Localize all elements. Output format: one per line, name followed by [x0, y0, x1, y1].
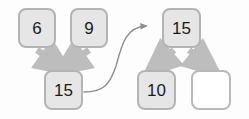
node-label: 10	[147, 82, 166, 99]
edge-15right-to-10	[158, 50, 174, 64]
node-label: 15	[54, 82, 73, 99]
node-6[interactable]: 6	[18, 8, 56, 48]
node-15-left[interactable]: 15	[44, 70, 83, 110]
edge-9-to-15	[69, 50, 89, 64]
edge-6-to-15	[37, 50, 57, 64]
node-label: 15	[172, 20, 191, 37]
diagram-canvas: 6 9 15 15 10	[0, 0, 249, 119]
node-label: 6	[32, 20, 41, 37]
node-blank[interactable]	[191, 70, 231, 110]
node-label: 9	[84, 20, 93, 37]
node-9[interactable]: 9	[70, 8, 108, 48]
edge-15right-to-blank	[189, 50, 206, 64]
node-15-right[interactable]: 15	[162, 8, 201, 48]
node-10[interactable]: 10	[137, 70, 176, 110]
